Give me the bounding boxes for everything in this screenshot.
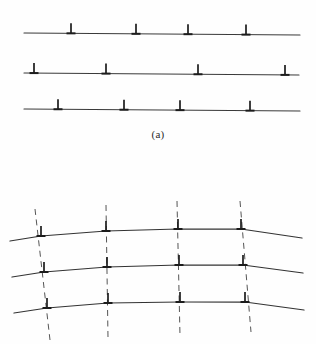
kinked-slip-plane-2 — [14, 302, 304, 313]
slip-plane-1 — [24, 73, 299, 75]
panel-a-caption: (a) — [0, 128, 316, 140]
tilt-boundary-0 — [35, 209, 50, 340]
slip-plane-0 — [24, 33, 300, 35]
panel-a-slip-planes — [24, 33, 300, 111]
dislocation-figure: (a) — [0, 0, 316, 344]
slip-plane-2 — [24, 109, 300, 111]
figure-canvas — [0, 0, 316, 344]
kinked-slip-plane-1 — [12, 265, 303, 277]
panel-b-dislocations — [37, 219, 250, 308]
panel-a-dislocations — [30, 23, 290, 110]
panel-b-kinked-planes — [10, 229, 304, 313]
kinked-slip-plane-0 — [10, 229, 302, 241]
panel-a-group — [24, 23, 300, 111]
panel-b-group — [10, 201, 304, 340]
